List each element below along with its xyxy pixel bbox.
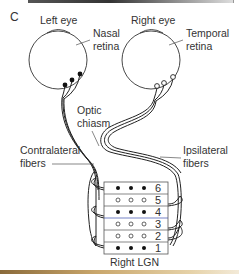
optic-chiasm-label-line1: Optic (77, 104, 102, 116)
lgn-layer-number: 1 (155, 242, 161, 254)
panel-label: C (10, 10, 19, 24)
right-eye-title: Right eye (131, 14, 176, 26)
ganglion-cell-open-icon (155, 84, 160, 89)
ipsilateral-fibers-label-line2: fibers (183, 157, 209, 169)
ganglion-cell-open-icon (171, 75, 176, 80)
left-eye-title: Left eye (40, 14, 78, 26)
visual-pathway-diagram: C Left eye Right eye Nasal retina Tempor… (0, 0, 239, 274)
contralateral-fibers-label-line2: fibers (20, 157, 46, 169)
left-eye (29, 30, 87, 100)
right-eye (122, 30, 180, 102)
contralateral-fibers-label-line1: Contralateral (20, 144, 80, 156)
temporal-retina-label-line2: retina (186, 40, 212, 52)
lgn-layer-number: 4 (155, 206, 161, 218)
ganglion-cell-open-icon (162, 81, 167, 86)
lgn-layer-number: 5 (155, 194, 161, 206)
temporal-retina-label-line1: Temporal (186, 27, 229, 39)
lgn-layer-number: 6 (155, 182, 161, 194)
right-lgn: 6 5 4 3 2 (104, 182, 168, 254)
optic-chiasm-label-line2: chiasm (77, 117, 111, 129)
ganglion-cell-filled-icon (70, 78, 75, 83)
ganglion-cell-filled-icon (63, 83, 68, 88)
lgn-title: Right LGN (110, 256, 159, 268)
lgn-layer-number: 3 (155, 218, 161, 230)
nasal-retina-label-line2: retina (93, 40, 119, 52)
nasal-retina-label-line1: Nasal (93, 27, 120, 39)
ganglion-cell-filled-icon (78, 72, 83, 77)
ipsilateral-fibers-label-line1: Ipsilateral (183, 144, 228, 156)
page-divider-bottom (0, 270, 239, 274)
lgn-layer-number: 2 (155, 230, 161, 242)
